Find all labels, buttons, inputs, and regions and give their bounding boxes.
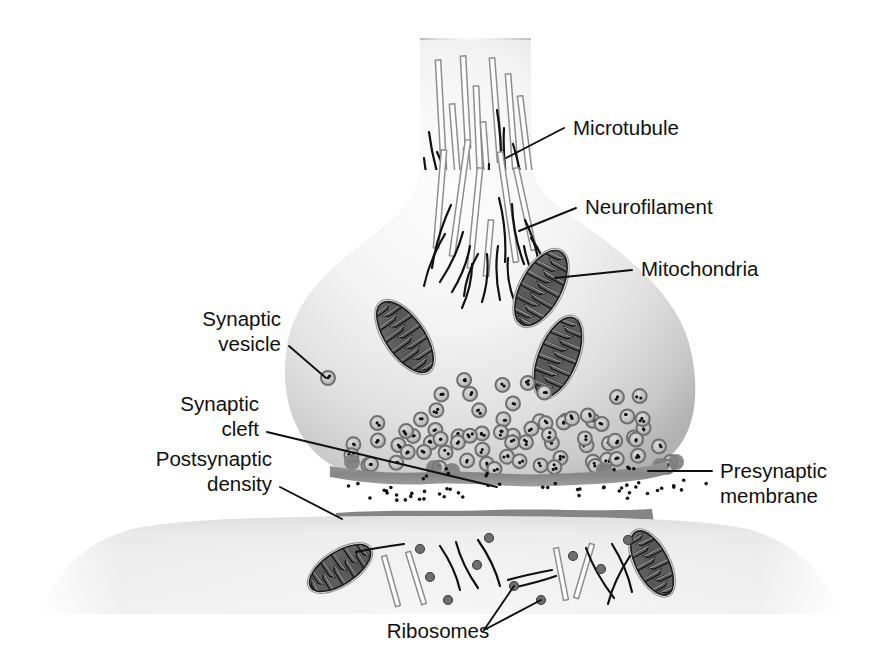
label-postsynaptic-density-line2: density xyxy=(207,472,273,495)
label-ribosomes: Ribosomes xyxy=(387,619,490,642)
label-microtubule: Microtubule xyxy=(573,116,679,139)
synapse-illustration: Microtubule Neurofilament Mitochondria S… xyxy=(0,0,879,665)
label-postsynaptic-density-line1: Postsynaptic xyxy=(156,447,272,470)
label-synaptic-cleft: Synaptic cleft xyxy=(180,392,259,440)
label-synaptic-vesicle-line1: Synaptic xyxy=(202,307,281,330)
label-postsynaptic-density: Postsynaptic density xyxy=(156,447,273,495)
label-presynaptic-membrane: Presynaptic membrane xyxy=(720,459,827,507)
label-presynaptic-membrane-line2: membrane xyxy=(720,484,818,507)
postsynaptic-cell xyxy=(40,516,840,614)
label-synaptic-vesicle-line2: vesicle xyxy=(218,332,281,355)
label-synaptic-vesicle: Synaptic vesicle xyxy=(202,307,281,355)
label-synaptic-cleft-line2: cleft xyxy=(221,417,259,440)
label-presynaptic-membrane-line1: Presynaptic xyxy=(720,459,827,482)
label-neurofilament: Neurofilament xyxy=(585,195,713,218)
label-synaptic-cleft-line1: Synaptic xyxy=(180,392,259,415)
synapse-diagram-canvas: Microtubule Neurofilament Mitochondria S… xyxy=(0,0,879,665)
label-mitochondria: Mitochondria xyxy=(641,257,759,280)
